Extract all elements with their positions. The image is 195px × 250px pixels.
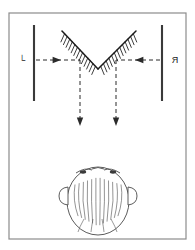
optics-ray-diagram: └ Я	[0, 0, 195, 250]
eye-right	[110, 170, 116, 173]
head-outline	[67, 167, 129, 235]
figure-canvas: └ Я	[0, 0, 195, 250]
right-object-label-reversed-R: Я	[172, 55, 179, 65]
left-object-label-L: └	[19, 54, 26, 65]
eye-left	[80, 170, 86, 173]
